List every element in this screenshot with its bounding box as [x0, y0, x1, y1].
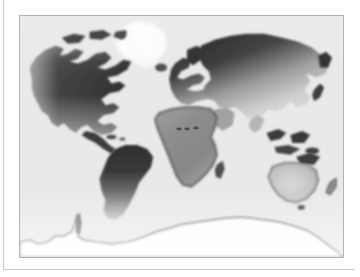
sahara-marker-2: [184, 128, 189, 131]
page-rule-bottom: [3, 269, 355, 270]
page-canvas: [0, 0, 360, 277]
sahara-marker-1: [176, 128, 181, 131]
sahara-marker-3: [193, 127, 198, 130]
world-map-svg: [20, 16, 343, 257]
page-rule-left: [3, 0, 4, 270]
region-iceland: [155, 64, 167, 72]
world-map-frame[interactable]: [19, 15, 344, 258]
